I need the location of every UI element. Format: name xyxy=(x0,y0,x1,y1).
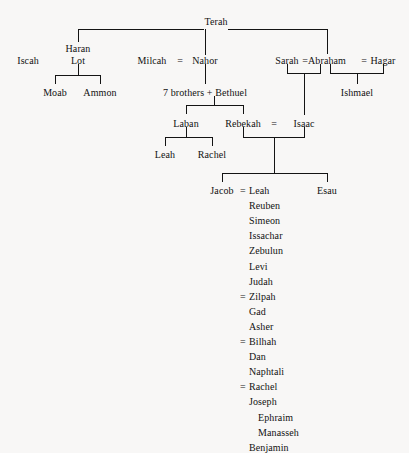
node-leah-daughter: Leah xyxy=(155,149,175,160)
node-nahor: Nahor xyxy=(192,55,218,66)
node-child-issachar: Issachar xyxy=(249,230,283,241)
connector-nahor-to-bethuel xyxy=(205,64,206,84)
marriage-symbol-jacob-leah: = xyxy=(240,185,246,196)
connector-bar-to-jacob xyxy=(222,173,223,182)
marriage-symbol-sarah-abraham: = xyxy=(302,55,308,66)
connector-terah-left-bar xyxy=(78,29,204,30)
connector-laban-to-rachel xyxy=(212,137,213,146)
connector-terah-right-bar xyxy=(228,29,328,30)
connector-terah-to-nahor xyxy=(205,29,206,55)
node-child-asher: Asher xyxy=(249,321,273,332)
node-esau: Esau xyxy=(317,185,337,196)
node-haran: Haran xyxy=(66,43,91,54)
node-moab: Moab xyxy=(43,87,67,98)
node-child-ephraim: Ephraim xyxy=(258,412,293,423)
connector-jacob-esau-bar xyxy=(222,173,327,174)
connector-sarah-abraham-to-isaac xyxy=(304,73,305,115)
node-laban: Laban xyxy=(173,118,199,129)
node-child-zebulun: Zebulun xyxy=(249,245,283,256)
node-hagar: Hagar xyxy=(371,55,396,66)
marriage-symbol-jacob-zilpah: = xyxy=(240,291,246,302)
marriage-symbol-abraham-hagar: = xyxy=(361,55,367,66)
node-rachel-daughter: Rachel xyxy=(198,149,226,160)
connector-bar-to-esau xyxy=(327,173,328,182)
node-ammon: Ammon xyxy=(83,87,116,98)
node-wife-zilpah: Zilpah xyxy=(249,291,276,302)
node-abraham: Abraham xyxy=(308,55,346,66)
node-child-simeon: Simeon xyxy=(249,215,280,226)
node-child-dan: Dan xyxy=(249,351,266,362)
node-leah-wife: Leah xyxy=(249,185,269,196)
connector-abraham-hagar-to-ishmael xyxy=(357,73,358,84)
marriage-symbol-jacob-bilhah: = xyxy=(240,336,246,347)
connector-rebekah-isaac-drop xyxy=(274,137,275,173)
connector-laban-bar xyxy=(165,137,212,138)
connector-terah-to-abraham xyxy=(327,29,328,54)
node-isaac: Isaac xyxy=(293,118,314,129)
connector-terah-to-haran xyxy=(78,29,79,42)
node-child-benjamin: Benjamin xyxy=(249,442,289,453)
connector-bethuel-bar xyxy=(186,105,243,106)
node-wife-bilhah: Bilhah xyxy=(249,336,276,347)
node-child-naphtali: Naphtali xyxy=(249,366,284,377)
node-child-judah: Judah xyxy=(249,276,273,287)
marriage-symbol-milcah-nahor: = xyxy=(177,55,183,66)
node-child-gad: Gad xyxy=(249,306,266,317)
node-jacob: Jacob xyxy=(210,185,233,196)
connector-bethuel-to-rebekah xyxy=(243,105,244,114)
node-wife-rachel: Rachel xyxy=(249,381,277,392)
connector-bethuel-to-laban xyxy=(186,105,187,114)
node-lot: Lot xyxy=(71,55,85,66)
node-terah: Terah xyxy=(204,16,227,27)
node-child-levi: Levi xyxy=(249,261,268,272)
connector-laban-to-leah xyxy=(165,137,166,146)
connector-lot-to-moab xyxy=(55,75,56,84)
connector-lot-bar xyxy=(55,75,101,76)
node-sarah: Sarah xyxy=(275,55,298,66)
node-iscah: Iscah xyxy=(17,55,39,66)
node-child-joseph: Joseph xyxy=(249,396,277,407)
node-milcah: Milcah xyxy=(138,55,167,66)
node-child-manasseh: Manasseh xyxy=(258,427,299,438)
node-child-reuben: Reuben xyxy=(249,200,280,211)
node-seven-brothers-bethuel: 7 brothers + Bethuel xyxy=(163,87,247,98)
marriage-symbol-jacob-rachel: = xyxy=(240,381,246,392)
node-rebekah: Rebekah xyxy=(225,118,261,129)
marriage-symbol-rebekah-isaac: = xyxy=(271,118,277,129)
node-ishmael: Ishmael xyxy=(341,87,373,98)
connector-lot-to-ammon xyxy=(100,75,101,84)
